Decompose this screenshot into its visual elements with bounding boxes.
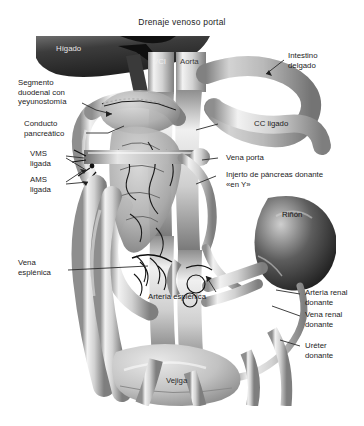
label-vms-ligated: VMS ligada [30, 149, 51, 168]
label-liver: Hígado [56, 44, 81, 53]
label-ivc: VCI [153, 57, 166, 66]
label-portal-vein: Vena porta [226, 153, 264, 163]
figure-canvas: Drenaje venoso portal Hígado VCI Aorta R… [0, 0, 364, 426]
label-y-graft: Injerto de páncreas donante «en Y» [226, 170, 323, 189]
label-donor-renal-vein: Vena renal donante [305, 310, 342, 329]
label-kidney: Riñón [282, 210, 302, 219]
label-pancreatic-duct: Conducto pancreático [24, 119, 64, 138]
label-donor-ureter: Uréter donante [305, 341, 333, 360]
label-bladder: Vejiga [166, 376, 187, 385]
label-duodenal-segment: Segmento duodenal con yeyunostomía [18, 78, 67, 107]
label-splenic-artery: Arteria esplénica [148, 292, 206, 302]
label-small-bowel: Intestino delgado [288, 51, 317, 70]
label-donor-renal-artery: Arteria renal donante [305, 288, 347, 307]
label-aorta: Aorta [180, 57, 199, 66]
figure-title: Drenaje venoso portal [0, 17, 364, 27]
label-cc-ligated: CC ligado [254, 119, 288, 129]
label-ams-ligated: AMS ligada [30, 175, 51, 194]
label-splenic-vein: Vena esplénica [18, 258, 51, 277]
